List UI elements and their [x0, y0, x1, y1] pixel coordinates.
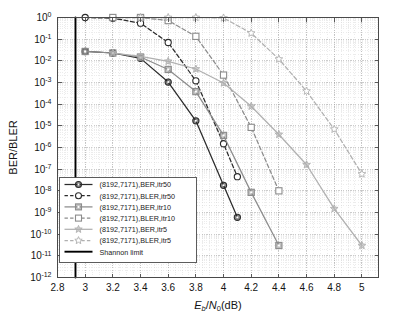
x-tick-label: 4.8 — [327, 282, 341, 293]
x-tick-label: 4 — [221, 282, 227, 293]
legend-label: (8192,7171),BLER,itr5 — [100, 236, 172, 245]
legend: (8192,7171),BER,itr50(8192,7171),BLER,it… — [60, 178, 197, 263]
y-tick-label: 10-7 — [34, 163, 51, 175]
x-tick-label: 2.8 — [51, 282, 65, 293]
y-tick-label: 10-5 — [34, 120, 51, 132]
legend-item: (8192,7171),BER,itr10 — [65, 203, 172, 212]
y-tick-label: 10-10 — [30, 228, 51, 240]
x-tick-label: 3.4 — [134, 282, 148, 293]
x-tick-label: 4.4 — [272, 282, 286, 293]
x-axis-title: Eb/N0(dB) — [194, 299, 241, 314]
y-tick-label: 10-6 — [34, 141, 51, 153]
y-tick-label: 10-11 — [31, 250, 52, 262]
x-tick-label: 3 — [82, 282, 88, 293]
y-tick-label: 10-12 — [30, 271, 51, 283]
y-tick-label: 10-4 — [34, 98, 51, 110]
ber-bler-performance-chart: 10010-110-210-310-410-510-610-710-810-91… — [0, 0, 400, 322]
legend-label: (8192,7171),BLER,itr50 — [100, 192, 176, 201]
y-tick-label: 10-3 — [34, 76, 51, 88]
x-tick-label: 4.2 — [244, 282, 258, 293]
y-tick-label: 10-1 — [34, 33, 51, 45]
x-tick-label: 3.6 — [161, 282, 175, 293]
x-tick-label: 3.2 — [106, 282, 120, 293]
y-axis-title: BER/BLER — [7, 120, 19, 174]
y-tick-label: 10-2 — [34, 55, 51, 67]
y-tick-label: 10-8 — [34, 185, 51, 197]
legend-label: (8192,7171),BER,itr10 — [100, 203, 172, 212]
x-tick-label: 3.8 — [189, 282, 203, 293]
y-tick-label: 100 — [36, 11, 51, 23]
legend-label: (8192,7171),BLER,itr10 — [100, 214, 176, 223]
y-tick-label: 10-9 — [34, 206, 51, 218]
legend-label: Shannon limit — [100, 248, 144, 257]
x-tick-label: 4.6 — [300, 282, 314, 293]
legend-label: (8192,7171),BER,itr5 — [100, 225, 168, 234]
legend-item: (8192,7171),BLER,itr10 — [65, 214, 176, 223]
legend-label: (8192,7171),BER,itr50 — [100, 180, 172, 189]
x-tick-label: 5 — [359, 282, 365, 293]
